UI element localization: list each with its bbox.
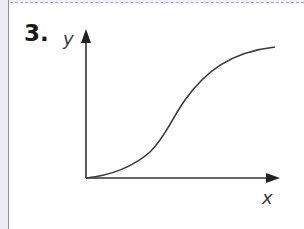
x-axis-arrow-icon	[266, 173, 280, 183]
sigmoid-curve	[86, 47, 275, 178]
y-axis-arrow-icon	[81, 29, 91, 43]
graph	[0, 0, 304, 229]
question-frame: 3. y x	[0, 0, 304, 229]
